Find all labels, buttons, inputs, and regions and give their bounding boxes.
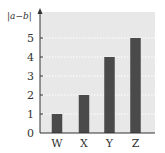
bar-z <box>130 38 141 133</box>
bar-chart: 012345 WXYZ |a−b| <box>0 0 165 153</box>
y-tick-label: 0 <box>27 127 34 140</box>
bar-y <box>104 57 115 133</box>
x-category-labels: WXYZ <box>51 137 139 150</box>
y-axis-arrow-icon <box>38 8 43 14</box>
y-tick-label: 2 <box>27 89 34 102</box>
bar-x <box>79 95 90 133</box>
y-tick-label: 5 <box>27 32 34 45</box>
y-axis-label: |a−b| <box>7 11 32 22</box>
y-tick-label: 1 <box>27 108 34 121</box>
y-tick-label: 4 <box>27 51 34 64</box>
y-tick-label: 3 <box>27 70 34 83</box>
x-category-label: Z <box>132 137 140 150</box>
bar-w <box>52 114 63 133</box>
y-tick-labels: 012345 <box>27 32 34 140</box>
x-category-label: Y <box>105 137 114 150</box>
x-category-label: W <box>51 137 63 150</box>
x-category-label: X <box>80 137 88 150</box>
